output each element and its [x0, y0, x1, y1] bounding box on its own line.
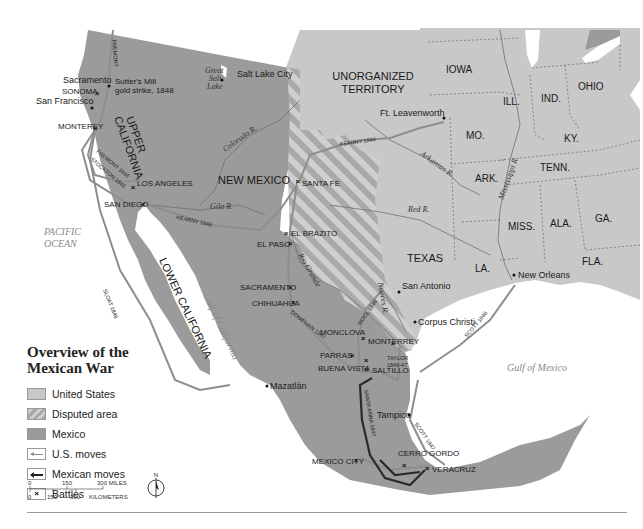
svg-text:TAYLOR: TAYLOR: [387, 355, 408, 361]
label-unorganized-territory: UNORGANIZED: [332, 70, 413, 82]
svg-text:×: ×: [284, 229, 289, 238]
label-mazatlan: Mazatlán: [270, 381, 307, 391]
svg-text:KILOMETERS: KILOMETERS: [89, 494, 128, 500]
svg-text:×: ×: [402, 461, 407, 470]
legend-label: United States: [52, 388, 115, 400]
svg-text:×: ×: [131, 183, 136, 192]
label-great-salt-lake-3: Lake: [206, 82, 223, 91]
label-mo: MO.: [466, 130, 485, 141]
label-gulf-of-mexico: Gulf of Mexico: [507, 362, 567, 373]
map-title-line-1: Overview of the: [27, 344, 129, 360]
label-gila-river: Gila R.: [210, 202, 233, 211]
swatch-disputed: [27, 408, 46, 420]
legend-item-disputed: Disputed area: [27, 404, 125, 424]
svg-text:0: 0: [28, 494, 32, 500]
label-mexico-city: MEXICO CITY: [312, 457, 365, 466]
label-cerro-gordo: CERRO GORDO: [398, 449, 459, 458]
label-unorganized-territory-2: TERRITORY: [341, 83, 405, 95]
svg-text:1846-47: 1846-47: [387, 362, 407, 368]
label-miss: MISS.: [508, 221, 535, 232]
label-san-francisco: San Francisco: [36, 96, 94, 106]
label-pacific: PACIFIC: [43, 226, 81, 237]
svg-text:SLOAT 1846: SLOAT 1846: [102, 288, 119, 319]
label-gold-strike: gold strike, 1848: [115, 86, 174, 95]
label-san-diego: SAN DIEGO: [104, 200, 148, 209]
us-moves-arrow-icon: [27, 448, 46, 460]
legend-label: U.S. moves: [52, 448, 106, 460]
label-el-brazito: EL BRAZITO: [291, 229, 337, 238]
map-title: Overview of the Mexican War: [27, 344, 129, 376]
label-ill: ILL.: [503, 96, 520, 107]
label-sacramento-battle: SACRAMENTO: [240, 283, 296, 292]
label-chihuahua: CHIHUAHUA: [252, 299, 300, 308]
legend-item-mexico: Mexico: [27, 424, 125, 444]
label-new-mexico: NEW MEXICO: [218, 174, 291, 186]
label-new-orleans: New Orleans: [518, 270, 571, 280]
label-red-river: Red R.: [407, 205, 429, 214]
label-buena-vista: BUENA VISTA: [318, 364, 371, 373]
label-sacramento: Sacramento: [63, 75, 112, 85]
svg-text:×: ×: [296, 177, 301, 186]
map-title-line-2: Mexican War: [27, 360, 129, 376]
label-salt-lake-city-1: Salt Lake City: [237, 69, 293, 79]
svg-text:0: 0: [28, 480, 32, 486]
label-los-angeles: LOS ANGELES: [137, 179, 193, 188]
bottom-rule: [27, 512, 627, 513]
svg-text:150: 150: [47, 494, 58, 500]
label-sutters-mill: Sutter's Mill: [115, 77, 156, 86]
swatch-mexico: [27, 428, 46, 440]
legend-label: Disputed area: [52, 408, 117, 420]
svg-text:300 MILES: 300 MILES: [97, 480, 127, 486]
label-fla: FLA.: [582, 256, 603, 267]
svg-text:×: ×: [425, 464, 430, 473]
label-monterey: MONTEREY: [58, 122, 104, 131]
legend-label: Mexico: [52, 428, 85, 440]
label-texas: TEXAS: [407, 252, 443, 264]
label-tampico: Tampico: [377, 410, 411, 420]
label-parras: PARRAS: [320, 351, 352, 360]
svg-text:300: 300: [70, 494, 81, 500]
svg-text:SCOTT 1847: SCOTT 1847: [413, 421, 436, 451]
label-ala: ALA.: [550, 218, 572, 229]
north-arrow-icon: N: [145, 470, 167, 500]
svg-text:N: N: [154, 472, 158, 478]
label-ohio: OHIO: [578, 81, 604, 92]
legend-item-us-moves: U.S. moves: [27, 444, 125, 464]
label-ky: KY.: [564, 133, 579, 144]
label-monclova: MONCLOVA: [320, 328, 366, 337]
label-iowa: IOWA: [446, 64, 473, 75]
label-sonoma: SONOMA: [62, 87, 98, 96]
label-tenn: TENN.: [540, 162, 570, 173]
label-ind: IND.: [541, 93, 561, 104]
label-san-antonio: San Antonio: [402, 281, 451, 291]
label-santa-fe: SANTA FE: [302, 179, 340, 188]
label-corpus-christi: Corpus Christi: [418, 317, 475, 327]
label-veracruz: VERACRUZ: [432, 465, 476, 474]
label-ocean: OCEAN: [44, 238, 78, 249]
legend-item-united-states: United States: [27, 384, 125, 404]
scale-bar: 0 150 300 MILES 0 150 300 KILOMETERS: [27, 478, 137, 502]
label-el-paso: EL PASO: [257, 240, 290, 249]
svg-text:150: 150: [62, 480, 73, 486]
label-ft-leavenworth: Ft. Leavenworth: [380, 108, 445, 118]
label-monterrey: MONTERREY: [368, 337, 420, 346]
label-la: LA.: [475, 263, 490, 274]
label-ga: GA.: [595, 213, 612, 224]
swatch-united-states: [27, 388, 46, 400]
label-ark: ARK.: [475, 173, 498, 184]
